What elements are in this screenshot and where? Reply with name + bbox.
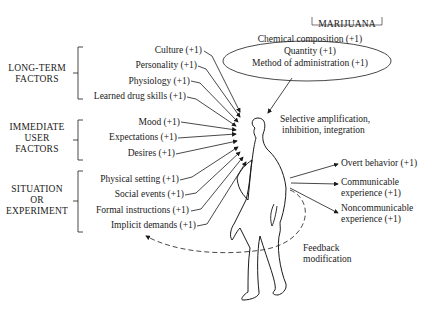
- factor-personality: Personality (+1): [84, 60, 197, 71]
- factor-learned-drug-skills: Learned drug skills (+1): [84, 91, 186, 102]
- factor-culture: Culture (+1): [84, 45, 202, 56]
- drug-factor: Chemical composition (+1): [230, 34, 390, 45]
- bracket-immediate: [73, 120, 83, 160]
- factor-physical-setting: Physical setting (+1): [84, 174, 179, 185]
- bracket-situation: [73, 171, 83, 232]
- drug-factor: Method of administration (+1): [230, 58, 390, 69]
- drug-title: MARIJUANA: [312, 19, 382, 30]
- group-label-situation: SITUATION OR EXPERIMENT: [2, 184, 72, 217]
- process-label: Selective amplification, inhibition, int…: [280, 114, 370, 136]
- output-overt-behavior: Overt behavior (+1): [341, 158, 417, 169]
- output-noncommunicable-experience: Noncommunicable experience (+1): [341, 203, 413, 225]
- factor-social-events: Social events (+1): [84, 189, 184, 200]
- factor-desires: Desires (+1): [84, 148, 175, 159]
- human-figure-outline: [231, 118, 287, 300]
- feedback-label: Feedback modification: [303, 243, 352, 265]
- output-communicable-experience: Communicable experience (+1): [341, 177, 401, 199]
- bracket-long-term: [73, 47, 83, 99]
- drug-factor: Quantity (+1): [230, 46, 390, 57]
- group-label-long-term: LONG-TERM FACTORS: [2, 63, 72, 85]
- factor-expectations: Expectations (+1): [84, 132, 177, 143]
- factor-mood: Mood (+1): [84, 117, 180, 128]
- group-label-immediate: IMMEDIATE USER FACTORS: [2, 122, 72, 155]
- factor-physiology: Physiology (+1): [84, 76, 190, 87]
- factor-formal-instructions: Formal instructions (+1): [84, 205, 189, 216]
- factor-implicit-demands: Implicit demands (+1): [84, 220, 196, 231]
